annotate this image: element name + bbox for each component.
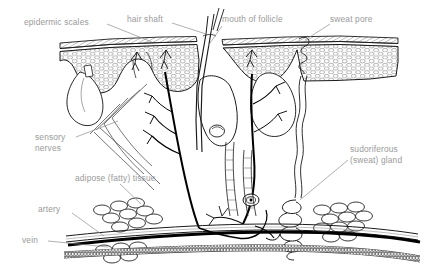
diagram-canvas: epidermic scales hair shaft mouth of fol…	[0, 0, 424, 267]
leader-hair-shaft	[172, 23, 206, 34]
sweat-duct-tube-b	[301, 76, 307, 198]
label-artery: artery	[38, 204, 61, 214]
label-epidermic-scales: epidermic scales	[24, 17, 89, 27]
skin-cross-section-diagram: epidermic scales hair shaft mouth of fol…	[0, 0, 424, 267]
sebaceous-lobe-right	[250, 73, 295, 137]
label-sensory-nerves-line2: nerves	[35, 143, 61, 153]
label-mouth-of-follicle: mouth of follicle	[222, 14, 283, 24]
label-sudoriferous-line1: sudoriferous	[350, 144, 398, 154]
label-vein: vein	[22, 235, 38, 245]
epidermis-block-right	[198, 36, 398, 146]
label-adipose-tissue: adipose (fatty) tissue	[75, 173, 156, 183]
duct-segment-left	[84, 65, 93, 77]
leader-sudoriferous-gland	[300, 160, 348, 200]
leader-artery	[72, 213, 104, 236]
label-sudoriferous-line2: (sweat) gland	[350, 155, 402, 165]
label-hair-shaft: hair shaft	[127, 14, 163, 24]
dermal-papilla-root-a	[133, 60, 136, 78]
epidermis-block-left	[60, 37, 199, 126]
dermis-cell-body-right	[223, 45, 398, 83]
sweat-duct-tube-a	[295, 76, 301, 198]
skin-illustration	[60, 8, 420, 263]
label-sweat-pore: sweat pore	[330, 14, 373, 24]
label-sensory-nerves-line1: sensory	[35, 132, 66, 142]
mouth-of-follicle-rim	[203, 35, 216, 37]
